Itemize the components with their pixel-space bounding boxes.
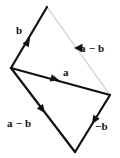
arrowhead-a-icon xyxy=(50,74,60,84)
label-a-middle: a xyxy=(63,67,69,78)
label-a-minus-b-right: a − b xyxy=(80,43,104,54)
edge-a-line xyxy=(11,68,110,95)
label-minus-b: −b xyxy=(95,121,108,132)
label-a-minus-b-left: a − b xyxy=(7,118,31,129)
vector-diagram: b a − b a a − b −b xyxy=(0,0,120,158)
label-b-top: b xyxy=(16,25,22,36)
edge-b-line xyxy=(11,7,47,68)
